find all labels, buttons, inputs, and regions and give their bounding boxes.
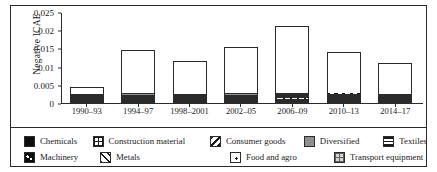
legend-label-food: Food and agro [246, 152, 297, 162]
bar-slot-4 [215, 13, 266, 103]
legend-label-metals: Metals [116, 152, 140, 162]
plot-area: Negative ICAE 0.025 0.02 0.015 0.01 0.00… [10, 5, 427, 127]
figure-root: Negative ICAE 0.025 0.02 0.015 0.01 0.00… [0, 0, 437, 172]
bar-group [61, 13, 421, 103]
x-tick-label-2: 1994–97 [113, 106, 164, 116]
legend-row-2: MachineryMetalsFood and agroTransport eq… [10, 149, 427, 165]
bar-slot-5 [267, 13, 318, 103]
bar-slot-1 [61, 13, 112, 103]
stacked-bar-2010-13[interactable] [327, 52, 361, 103]
legend-item-construction[interactable]: Construction material [93, 136, 210, 147]
stacked-bar-2014-17[interactable] [378, 63, 412, 103]
legend-item-consumer[interactable]: Consumer goods [210, 136, 304, 147]
legend-label-chemicals: Chemicals [40, 136, 77, 146]
bar-segment-chemicals [71, 101, 103, 102]
x-tick-label-4: 2002–05 [215, 106, 266, 116]
y-tick-0.015: 0.015 [34, 44, 58, 54]
legend-label-diversified: Diversified [320, 136, 360, 146]
legend-swatch-food-icon [230, 152, 241, 163]
legend-row-1: ChemicalsConstruction materialConsumer g… [10, 133, 427, 149]
bar-slot-3 [164, 13, 215, 103]
legend-label-consumer: Consumer goods [226, 136, 285, 146]
bar-segment-chemicals [328, 101, 360, 102]
stacked-bar-2002-05[interactable] [224, 47, 258, 103]
y-axis-tick-labels: 0.025 0.02 0.015 0.01 0.005 0 [18, 13, 58, 104]
y-tick-0.01: 0.01 [38, 63, 58, 73]
stacked-bar-1994-97[interactable] [121, 50, 155, 103]
bar-segment-chemicals [174, 101, 206, 102]
legend-item-metals[interactable]: Metals [100, 152, 230, 163]
legend-swatch-chemicals-icon [24, 136, 35, 147]
bar-slot-6 [318, 13, 369, 103]
stacked-bar-2006-09[interactable] [275, 26, 309, 103]
legend-swatch-machinery-icon [24, 152, 35, 163]
legend-swatch-consumer-icon [210, 136, 221, 147]
legend-label-textiles: Textiles [399, 136, 427, 146]
stacked-bar-1990-93[interactable] [70, 87, 104, 103]
legend-label-transport: Transport equipment [350, 152, 423, 162]
y-tick-0.02: 0.02 [38, 26, 58, 36]
y-tick-0.005: 0.005 [34, 81, 58, 91]
legend-item-diversified[interactable]: Diversified [304, 136, 383, 147]
x-axis-line [61, 103, 423, 104]
legend-swatch-textiles-icon [383, 136, 394, 147]
x-tick-label-3: 1998–2001 [164, 106, 215, 116]
bar-slot-7 [370, 13, 421, 103]
legend-item-textiles[interactable]: Textiles [383, 136, 427, 147]
x-tick-label-1: 1990–93 [61, 106, 112, 116]
legend-label-machinery: Machinery [40, 152, 78, 162]
bar-segment-chemicals [276, 101, 308, 102]
x-tick-label-7: 2014–17 [370, 106, 421, 116]
x-tick-label-6: 2010–13 [318, 106, 369, 116]
bar-segment-chemicals [122, 101, 154, 102]
legend-swatch-construction-icon [93, 136, 104, 147]
chart-legend: ChemicalsConstruction materialConsumer g… [10, 127, 427, 167]
bar-segment-chemicals [379, 101, 411, 102]
x-axis-tick-labels: 1990–931994–971998–20012002–052006–09201… [61, 106, 421, 116]
legend-label-construction: Construction material [109, 136, 185, 146]
x-tick-label-5: 2006–09 [267, 106, 318, 116]
legend-item-transport[interactable]: Transport equipment [334, 152, 423, 163]
axes [61, 13, 421, 104]
bar-slot-2 [113, 13, 164, 103]
bar-segment-chemicals [225, 101, 257, 102]
legend-item-machinery[interactable]: Machinery [24, 152, 100, 163]
y-tick-0.025: 0.025 [34, 8, 58, 18]
y-tick-0: 0 [50, 99, 59, 109]
legend-swatch-transport-icon [334, 152, 345, 163]
legend-item-chemicals[interactable]: Chemicals [24, 136, 93, 147]
legend-item-food[interactable]: Food and agro [230, 152, 334, 163]
legend-swatch-metals-icon [100, 152, 111, 163]
stacked-bar-1998-2001[interactable] [173, 61, 207, 103]
legend-swatch-diversified-icon [304, 136, 315, 147]
